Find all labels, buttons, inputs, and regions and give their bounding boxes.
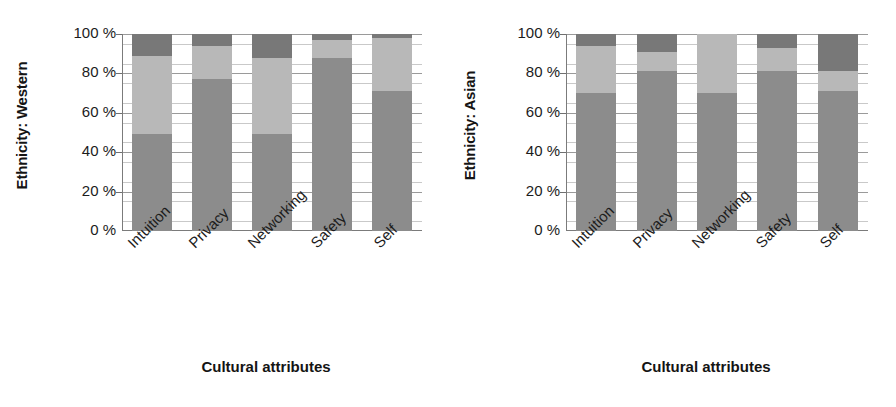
bar-segment-top bbox=[818, 34, 858, 71]
y-tick-label: 100 % bbox=[48, 24, 116, 41]
bar-self bbox=[818, 34, 858, 231]
bar-segment-bottom bbox=[312, 58, 352, 231]
bar-segment-top bbox=[132, 34, 172, 56]
bar-segment-bottom bbox=[818, 91, 858, 231]
bar-segment-bottom bbox=[757, 71, 797, 231]
plot-area-western bbox=[122, 34, 422, 231]
bar-group-asian bbox=[566, 34, 868, 231]
y-axis-title-asian-text: Ethnicity: Asian bbox=[462, 70, 479, 180]
y-tick-label: 60 % bbox=[492, 103, 560, 120]
bar-segment-middle bbox=[818, 71, 858, 91]
bar-group-western bbox=[122, 34, 422, 231]
bar-privacy bbox=[192, 34, 232, 231]
x-axis-category-labels-asian: Intuition Privacy Networking Safety Self bbox=[566, 233, 868, 333]
y-tick-label: 100 % bbox=[492, 24, 560, 41]
y-axis-title-western-text: Ethnicity: Western bbox=[14, 61, 31, 189]
bar-segment-top bbox=[757, 34, 797, 48]
stacked-bar-chart-figure: Ethnicity: Western 100 % 80 % 60 % 40 % … bbox=[0, 0, 896, 407]
x-axis-title-western: Cultural attributes bbox=[0, 358, 490, 375]
bar-segment-bottom bbox=[372, 91, 412, 231]
bar-segment-middle bbox=[132, 56, 172, 135]
chart-panel-asian: Ethnicity: Asian 100 % 80 % 60 % 40 % 20… bbox=[448, 0, 896, 407]
y-tick-label: 40 % bbox=[492, 142, 560, 159]
chart-panel-western: Ethnicity: Western 100 % 80 % 60 % 40 % … bbox=[0, 0, 448, 407]
bar-segment-middle bbox=[697, 34, 737, 93]
y-tick-label: 0 % bbox=[492, 221, 560, 238]
bar-privacy bbox=[637, 34, 677, 231]
bar-intuition bbox=[132, 34, 172, 231]
bar-segment-middle bbox=[372, 38, 412, 91]
bar-segment-middle bbox=[252, 58, 292, 135]
bar-safety bbox=[757, 34, 797, 231]
bar-segment-middle bbox=[192, 46, 232, 79]
bar-safety bbox=[312, 34, 352, 231]
y-tick-label: 40 % bbox=[48, 142, 116, 159]
y-axis-ticks-asian: 100 % 80 % 60 % 40 % 20 % 0 % bbox=[490, 34, 560, 231]
bar-segment-middle bbox=[637, 52, 677, 72]
y-tick-label: 0 % bbox=[48, 221, 116, 238]
y-tick-label: 80 % bbox=[48, 63, 116, 80]
bar-segment-top bbox=[192, 34, 232, 46]
bar-segment-middle bbox=[576, 46, 616, 93]
y-axis-title-western: Ethnicity: Western bbox=[2, 0, 42, 250]
bar-segment-top bbox=[252, 34, 292, 58]
plot-area-asian bbox=[566, 34, 868, 231]
bar-segment-middle bbox=[312, 40, 352, 58]
y-tick-label: 80 % bbox=[492, 63, 560, 80]
bar-segment-middle bbox=[757, 48, 797, 72]
bar-segment-top bbox=[576, 34, 616, 46]
x-axis-category-labels-western: Intuition Privacy Networking Safety Self bbox=[122, 233, 422, 333]
y-axis-ticks-western: 100 % 80 % 60 % 40 % 20 % 0 % bbox=[46, 34, 116, 231]
x-axis-title-asian: Cultural attributes bbox=[448, 358, 896, 375]
bar-segment-bottom bbox=[192, 79, 232, 231]
y-tick-label: 20 % bbox=[48, 182, 116, 199]
bar-segment-bottom bbox=[637, 71, 677, 231]
y-axis-title-asian: Ethnicity: Asian bbox=[450, 0, 490, 250]
y-tick-label: 20 % bbox=[492, 182, 560, 199]
bar-intuition bbox=[576, 34, 616, 231]
bar-segment-top bbox=[637, 34, 677, 52]
y-tick-label: 60 % bbox=[48, 103, 116, 120]
bar-self bbox=[372, 34, 412, 231]
